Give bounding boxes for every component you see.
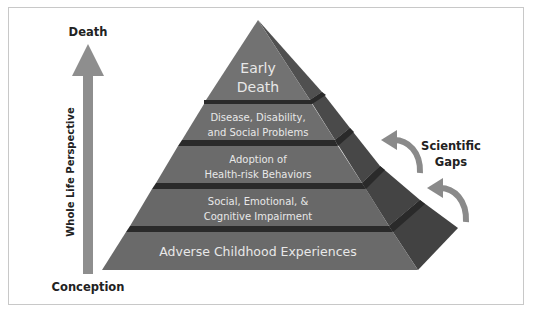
level-4-line1: Adverse Childhood Experiences (159, 244, 357, 259)
axis-top-label: Death (69, 25, 108, 39)
level-0-line2: Death (237, 79, 279, 95)
level-3-line1: Social, Emotional, & (208, 196, 309, 207)
life-arrow-icon (72, 44, 104, 274)
annotation-line1: Scientific (421, 139, 481, 153)
level-1-line2: and Social Problems (208, 127, 309, 138)
level-3-line2: Cognitive Impairment (204, 211, 313, 222)
pyramid-diagram: Death Conception Whole Life Perspective … (0, 0, 534, 312)
annotation-line2: Gaps (435, 155, 467, 169)
axis-side-label: Whole Life Perspective (65, 107, 76, 237)
level-2-line1: Adoption of (229, 154, 287, 165)
axis-bottom-label: Conception (52, 280, 125, 294)
level-0-line1: Early (240, 60, 275, 76)
level-1-line1: Disease, Disability, (210, 112, 305, 123)
pyramid-front-faces (102, 20, 418, 270)
level-2-line2: Health-risk Behaviors (204, 169, 311, 180)
